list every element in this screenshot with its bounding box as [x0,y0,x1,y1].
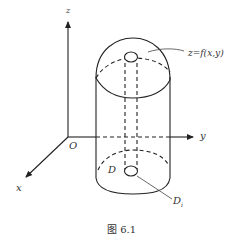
x-axis-label: x [16,183,22,193]
region-label: D [108,165,116,175]
subregion-label-subscript: i [181,201,183,208]
origin-label: O [69,141,77,151]
dome-front-curve [96,78,170,98]
surface-leader-line [148,49,184,52]
figure-canvas: z y x O z=f(x,y) D Di 图 6.1 [0,0,240,241]
x-axis [26,137,68,177]
subregion-label: Di [173,196,183,208]
surface-label: z=f(x,y) [188,49,224,58]
top-small-ellipse [125,52,138,62]
base-front-curve [96,178,170,194]
subregion-leader-line [137,176,172,199]
y-axis-label: y [200,131,206,141]
subregion-label-main: D [173,195,181,206]
z-axis-label: z [66,7,70,15]
figure-caption: 图 6.1 [107,225,136,235]
subregion-ellipse [125,166,138,176]
diagram-svg [0,0,240,241]
